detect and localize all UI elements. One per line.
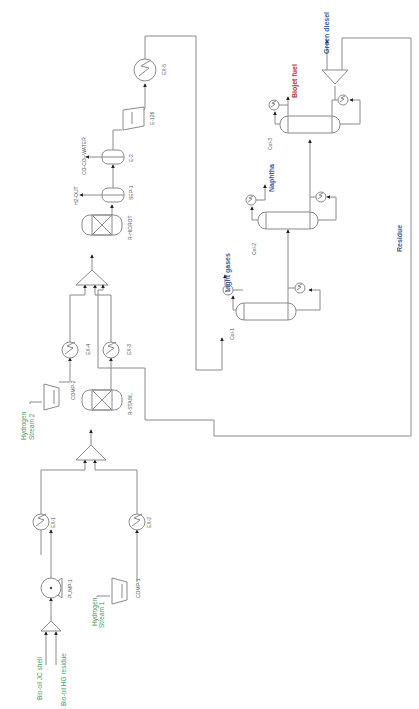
process-flow-diagram: Bio-oil JC shell Bio-oil HG residue PUMP…	[0, 0, 419, 709]
column-col-1[interactable]: Col-1	[229, 303, 296, 340]
label-col-2: Col-2	[251, 243, 257, 255]
feed-label-hydrogen-stream-2-line1: Hydrogen	[20, 411, 28, 440]
splitter-green-diesel[interactable]	[322, 70, 348, 84]
compressor-e-126[interactable]: E-126	[123, 107, 155, 130]
column-col-3[interactable]: Col-3	[267, 116, 340, 150]
column-col-2[interactable]: Col-2	[251, 212, 318, 255]
label-sep-1: SEP-1	[128, 185, 134, 200]
heat-exchanger-ex-2[interactable]: EX-2	[129, 514, 152, 530]
reactor-r-hidrot[interactable]: R-HIDROT	[82, 215, 133, 240]
feed-label-bio-oil-jc-shell: Bio-oil JC shell	[36, 656, 43, 700]
mixer-2[interactable]	[76, 445, 106, 460]
reactor-r-stabil[interactable]: R-STABIL	[82, 390, 133, 415]
feed-hydrogen-stream-1[interactable]: Hydrogen Stream 1	[91, 596, 110, 628]
feed-label-bio-oil-hg-residue: Bio-oil HG residue	[60, 653, 67, 706]
product-label-residue: Residue	[396, 225, 403, 252]
feed-label-hydrogen-stream-1-line2: Stream 1	[98, 601, 105, 628]
feed-label-hydrogen-stream-2-line2: Stream 2	[28, 413, 35, 440]
pump-1[interactable]: PUMP-1	[41, 578, 73, 598]
mixer-3[interactable]	[76, 270, 108, 285]
label-col-3: Col-3	[267, 138, 273, 150]
label-e-2: E-2	[128, 154, 134, 162]
feed-bio-oil-hg-residue[interactable]: Bio-oil HG residue	[56, 632, 67, 706]
feed-bio-oil-jc-shell[interactable]: Bio-oil JC shell	[36, 632, 46, 700]
label-pump-1: PUMP-1	[67, 579, 73, 598]
label-r-stabil: R-STABIL	[127, 393, 133, 415]
outlet-label-h2-out: H2-OUT	[73, 186, 79, 205]
label-ex-4: EX-4	[85, 344, 91, 355]
mixer-bio-oil[interactable]	[41, 621, 61, 631]
heat-exchanger-ex-5[interactable]: EX-5	[134, 59, 167, 81]
label-r-hidrot: R-HIDROT	[127, 216, 133, 240]
product-label-light-gases: Light gases	[224, 253, 232, 292]
label-comp-1: COMP-1	[135, 578, 141, 598]
separator-sep-1[interactable]: SEP-1	[102, 185, 134, 202]
label-e-126: E-126	[149, 111, 155, 125]
compressor-comp-2[interactable]: COMP-2	[44, 380, 76, 410]
outlet-label-co-co2-water: CO-CO₂-WATER	[81, 137, 87, 175]
product-label-green-diesel: Green diesel	[323, 12, 330, 54]
separator-e-2[interactable]: E-2	[102, 150, 134, 164]
heat-exchanger-ex-4[interactable]: EX-4	[62, 342, 91, 358]
heat-exchanger-ex-3[interactable]: EX-3	[103, 342, 132, 358]
label-ex-3: EX-3	[126, 344, 132, 355]
heat-exchanger-ex-1[interactable]: EX-1	[33, 514, 56, 530]
label-ex-2: EX-2	[146, 517, 152, 528]
feed-hydrogen-stream-2[interactable]: Hydrogen Stream 2	[20, 402, 42, 440]
label-ex-5: EX-5	[161, 64, 167, 75]
product-label-naphtha: Naphtha	[268, 164, 276, 192]
product-label-biojet-fuel: Biojet fuel	[291, 64, 299, 98]
label-comp-2: COMP-2	[70, 380, 76, 400]
label-ex-1: EX-1	[50, 517, 56, 528]
label-col-1: Col-1	[229, 328, 235, 340]
